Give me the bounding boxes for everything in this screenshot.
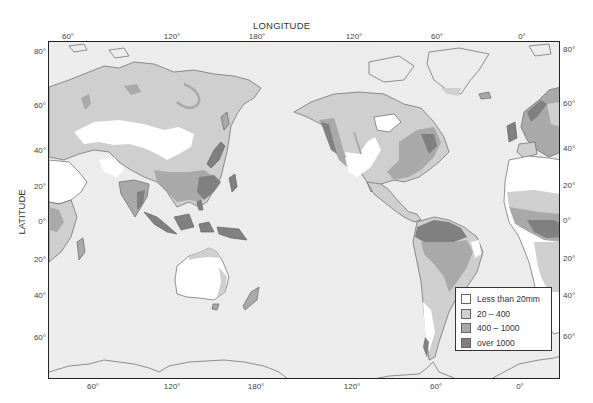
right-tick-label: 0° — [563, 216, 571, 225]
left-tick-label: 60° — [28, 101, 46, 110]
legend-label: 20 – 400 — [477, 309, 510, 319]
left-tick-label: 20° — [28, 255, 46, 264]
left-tick-label: 0° — [28, 217, 46, 226]
left-tick-label: 60° — [28, 333, 46, 342]
latitude-axis-title: LATITUDE — [16, 189, 27, 234]
bottom-tick-label: 120° — [344, 382, 361, 391]
longitude-axis-title: LONGITUDE — [253, 20, 310, 31]
right-tick-label: 60° — [563, 332, 575, 341]
bottom-tick-label: 60° — [87, 382, 99, 391]
left-tick-label: 40° — [28, 291, 46, 300]
left-tick-label: 80° — [28, 47, 46, 56]
legend-swatch-white — [461, 294, 471, 304]
right-tick-label: 40° — [563, 291, 575, 300]
bottom-tick-label: 60° — [430, 382, 442, 391]
left-tick-label: 40° — [28, 146, 46, 155]
top-tick-label: 120° — [164, 32, 181, 41]
legend-item-over-1000: over 1000 — [461, 336, 551, 351]
bottom-tick-label: 180° — [248, 382, 265, 391]
top-tick-label: 180° — [249, 32, 266, 41]
australia — [175, 248, 259, 310]
north-america — [294, 92, 449, 222]
antarctica — [49, 356, 560, 379]
legend-swatch-light-gray — [461, 309, 471, 319]
bottom-tick-label: 120° — [164, 382, 181, 391]
legend-label: Less than 20mm — [477, 294, 540, 304]
right-tick-label: 20° — [563, 181, 575, 190]
legend-item-20-400: 20 – 400 — [461, 307, 551, 322]
right-tick-label: 60° — [563, 99, 575, 108]
legend-label: 400 – 1000 — [477, 323, 520, 333]
bottom-tick-label: 0° — [516, 382, 524, 391]
top-tick-label: 60° — [431, 32, 443, 41]
legend-item-less-than-20mm: Less than 20mm — [461, 292, 551, 307]
greenland — [427, 48, 491, 99]
top-tick-label: 60° — [62, 32, 74, 41]
right-tick-label: 40° — [563, 144, 575, 153]
right-tick-label: 80° — [563, 45, 575, 54]
legend-swatch-medium-gray — [461, 323, 471, 333]
top-tick-label: 120° — [346, 32, 363, 41]
top-tick-label: 0° — [518, 32, 526, 41]
legend-swatch-dark-gray — [461, 338, 471, 348]
right-tick-label: 20° — [563, 254, 575, 263]
europe — [507, 87, 560, 158]
legend-label: over 1000 — [477, 338, 515, 348]
africa-arabia-west — [49, 160, 87, 262]
precipitation-legend: Less than 20mm 20 – 400 400 – 1000 over … — [455, 287, 552, 351]
left-tick-label: 20° — [28, 182, 46, 191]
legend-item-400-1000: 400 – 1000 — [461, 321, 551, 336]
